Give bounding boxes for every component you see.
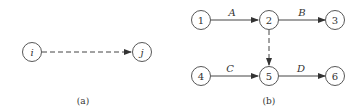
node-6: 6: [326, 67, 345, 86]
node-3: 3: [326, 11, 345, 30]
caption-a: (a): [77, 96, 89, 106]
diagram-a: i j (a): [23, 43, 152, 107]
node-5: 5: [260, 67, 279, 86]
diagram-b: A B C D 1 2 3 4: [192, 7, 345, 106]
edge-2-3-B: B: [279, 7, 325, 20]
edge-label-A: A: [227, 7, 235, 18]
node-2: 2: [260, 11, 279, 30]
edge-label-D: D: [296, 63, 305, 74]
node-4: 4: [192, 67, 211, 86]
edge-label-B: B: [297, 7, 305, 18]
node-i-label: i: [30, 47, 33, 58]
node-1: 1: [192, 11, 211, 30]
caption-b: (b): [263, 96, 276, 106]
node-5-label: 5: [266, 71, 272, 82]
edge-1-2-A: A: [211, 7, 258, 20]
edge-4-5-C: C: [211, 63, 258, 76]
node-6-label: 6: [332, 71, 338, 82]
edge-5-6-D: D: [279, 63, 325, 76]
node-1-label: 1: [198, 15, 204, 26]
network-diagrams: i j (a) A B C D 1: [0, 0, 362, 112]
edge-label-C: C: [226, 63, 234, 74]
node-2-label: 2: [266, 15, 272, 26]
node-i: i: [23, 43, 42, 62]
node-4-label: 4: [198, 71, 204, 82]
node-3-label: 3: [332, 15, 338, 26]
node-j: j: [133, 43, 152, 62]
